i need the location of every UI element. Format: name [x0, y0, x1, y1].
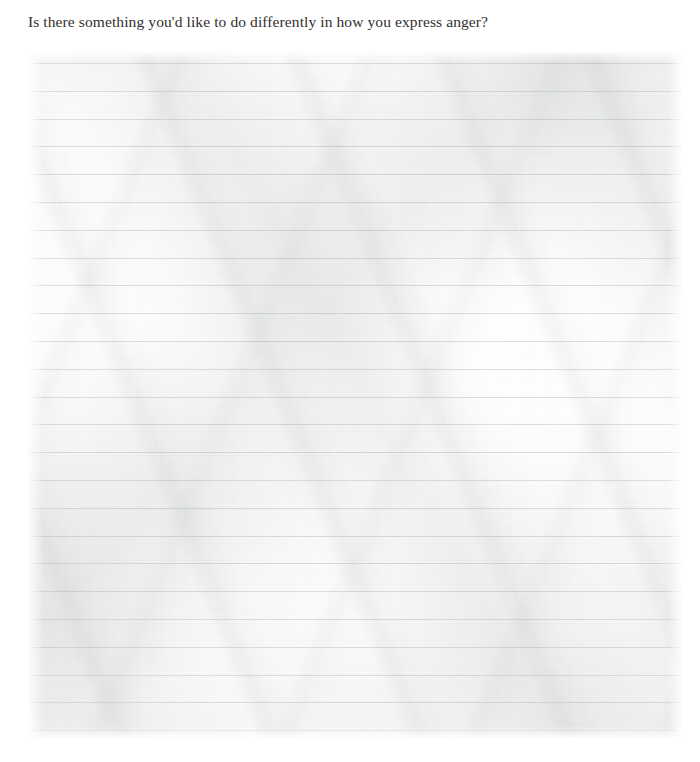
- lined-paper-writing-area[interactable]: [28, 52, 682, 738]
- rule-line: [28, 202, 682, 203]
- rule-line: [28, 397, 682, 398]
- rule-line: [28, 591, 682, 592]
- journal-prompt-page: Is there something you'd like to do diff…: [0, 0, 700, 762]
- rule-line: [28, 91, 682, 92]
- ruled-lines-group: [28, 52, 682, 738]
- rule-line: [28, 730, 682, 731]
- rule-line: [28, 341, 682, 342]
- rule-line: [28, 647, 682, 648]
- rule-line: [28, 508, 682, 509]
- rule-line: [28, 424, 682, 425]
- rule-line: [28, 536, 682, 537]
- rule-line: [28, 258, 682, 259]
- rule-line: [28, 619, 682, 620]
- rule-line: [28, 146, 682, 147]
- rule-line: [28, 675, 682, 676]
- rule-line: [28, 313, 682, 314]
- rule-line: [28, 452, 682, 453]
- rule-line: [28, 119, 682, 120]
- rule-line: [28, 285, 682, 286]
- rule-line: [28, 563, 682, 564]
- rule-line: [28, 174, 682, 175]
- rule-line: [28, 369, 682, 370]
- rule-line: [28, 230, 682, 231]
- prompt-question-text: Is there something you'd like to do diff…: [28, 12, 668, 32]
- rule-line: [28, 480, 682, 481]
- rule-line: [28, 702, 682, 703]
- rule-line: [28, 63, 682, 64]
